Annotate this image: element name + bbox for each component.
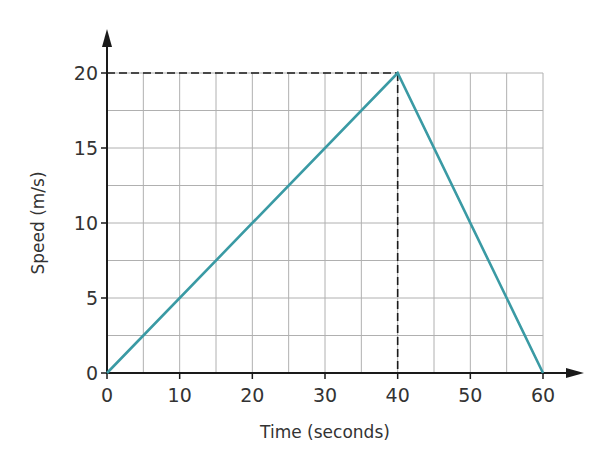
y-tick-label: 5	[86, 287, 98, 309]
y-tick-label: 20	[74, 62, 98, 84]
x-tick-label: 0	[101, 384, 113, 406]
y-tick-label: 0	[86, 362, 98, 384]
axes	[102, 29, 584, 378]
y-tick-labels: 05101520	[74, 62, 98, 384]
y-axis-arrow-icon	[102, 29, 112, 47]
x-tick-label: 30	[313, 384, 337, 406]
x-tick-label: 60	[531, 384, 555, 406]
axis-ticks	[101, 73, 543, 379]
x-axis-arrow-icon	[566, 368, 584, 378]
x-axis-label: Time (seconds)	[259, 422, 390, 442]
y-tick-label: 10	[74, 212, 98, 234]
grid	[107, 73, 543, 373]
x-tick-label: 10	[168, 384, 192, 406]
x-tick-label: 50	[458, 384, 482, 406]
x-tick-label: 40	[386, 384, 410, 406]
x-tick-label: 20	[240, 384, 264, 406]
speed-time-chart: 0102030405060 05101520 Time (seconds) Sp…	[0, 0, 600, 458]
y-axis-label: Speed (m/s)	[28, 171, 48, 274]
x-tick-labels: 0102030405060	[101, 384, 555, 406]
y-tick-label: 15	[74, 137, 98, 159]
